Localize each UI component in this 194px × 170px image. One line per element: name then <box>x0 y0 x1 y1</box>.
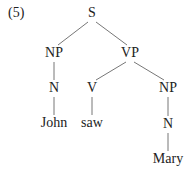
node-np-object: NP <box>159 80 177 96</box>
node-np-subject: NP <box>45 45 63 61</box>
edge-vp-v <box>96 62 126 80</box>
node-n-subject: N <box>49 80 59 96</box>
leaf-mary: Mary <box>153 151 183 167</box>
edge-s-vp <box>96 22 127 45</box>
leaf-saw: saw <box>81 115 103 131</box>
edge-vp-np <box>134 62 164 80</box>
node-n-object: N <box>163 116 173 132</box>
node-vp: VP <box>121 45 139 61</box>
edge-s-np <box>58 22 88 45</box>
leaf-john: John <box>41 115 67 131</box>
node-s: S <box>88 5 96 21</box>
node-v: V <box>87 80 97 96</box>
